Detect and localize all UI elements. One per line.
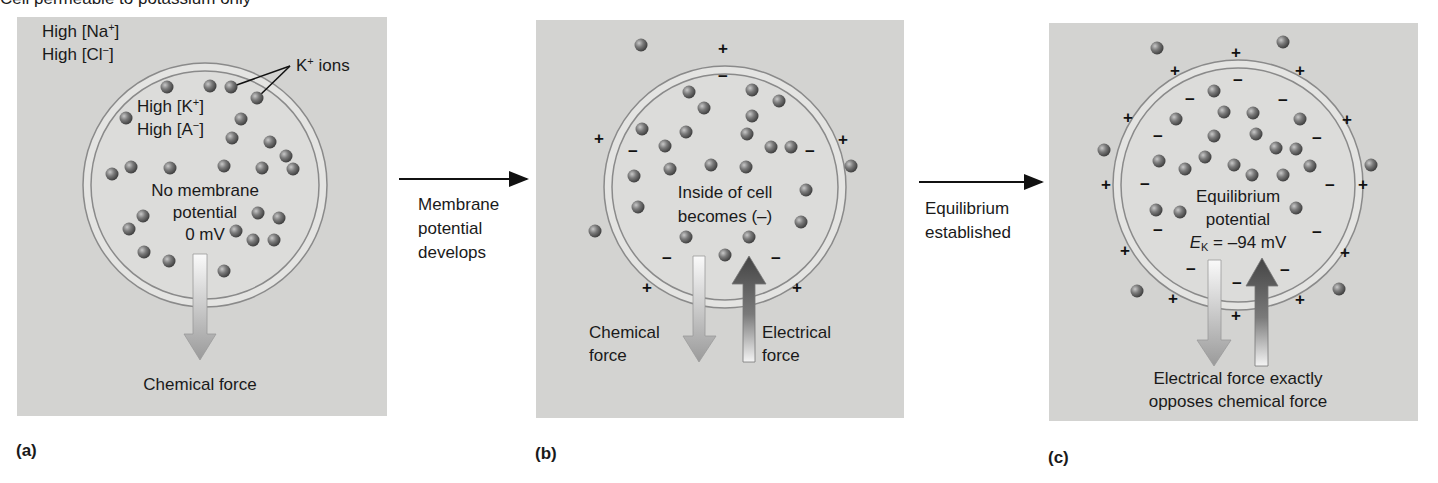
no-membrane-potential-label: No membrane potential 0 mV [120, 180, 290, 246]
intracellular-a-label: High [A−] [137, 119, 204, 141]
svg-text:+: + [1101, 175, 1111, 194]
equilibrium-potential-label: Equilibrium potential EK = –94 mV [1163, 185, 1313, 254]
svg-text:−: − [1312, 129, 1322, 148]
svg-text:−: − [662, 249, 672, 268]
svg-text:+: + [1358, 175, 1368, 194]
svg-text:+: + [642, 278, 652, 297]
equilibrium-force-label-c: Electrical force exactly opposes chemica… [1118, 367, 1358, 413]
svg-text:−: − [805, 142, 815, 161]
k-ions-label: K+ ions [296, 55, 350, 77]
svg-text:−: − [628, 142, 638, 161]
chemical-force-label-b: Chemical force [589, 321, 660, 367]
svg-text:+: + [1168, 289, 1178, 308]
intracellular-k-label: High [K+] [137, 96, 204, 118]
svg-text:−: − [1186, 260, 1196, 279]
svg-text:−: − [1185, 90, 1195, 109]
svg-text:−: − [1153, 221, 1163, 240]
svg-text:+: + [1123, 108, 1133, 127]
svg-text:−: − [1312, 223, 1322, 242]
svg-text:+: + [1342, 110, 1352, 129]
svg-text:+: + [1340, 243, 1350, 262]
svg-text:−: − [771, 249, 781, 268]
svg-text:+: + [1120, 241, 1130, 260]
svg-text:−: − [1232, 274, 1242, 293]
svg-text:+: + [1170, 61, 1180, 80]
panel-label-a: (a) [16, 441, 37, 461]
electrical-force-label-b: Electrical force [762, 321, 831, 367]
svg-text:+: + [718, 39, 728, 58]
svg-text:−: − [1280, 261, 1290, 280]
chemical-force-label-a: Chemical force [100, 374, 300, 396]
svg-text:−: − [1325, 176, 1335, 195]
svg-text:+: + [792, 278, 802, 297]
transition-1-label: Membrane potential develops [418, 193, 499, 265]
svg-text:+: + [594, 129, 604, 148]
panel-label-c: (c) [1048, 448, 1069, 468]
transition-2-label: Equilibrium established [925, 197, 1011, 245]
svg-text:+: + [838, 130, 848, 149]
svg-text:+: + [1231, 43, 1241, 62]
svg-text:−: − [1153, 127, 1163, 146]
inside-cell-negative-label: Inside of cell becomes (–) [650, 181, 800, 229]
svg-text:+: + [1295, 290, 1305, 309]
panel-label-b: (b) [535, 444, 557, 464]
svg-text:−: − [1140, 175, 1150, 194]
svg-text:−: − [1278, 91, 1288, 110]
svg-text:+: + [1295, 61, 1305, 80]
extracellular-cl-label: High [Cl−] [42, 44, 114, 66]
extracellular-na-label: High [Na+] [42, 21, 119, 43]
svg-text:−: − [1233, 71, 1243, 90]
ek-equation: EK = –94 mV [1163, 231, 1313, 254]
svg-text:−: − [718, 67, 728, 86]
svg-text:+: + [1231, 306, 1241, 325]
